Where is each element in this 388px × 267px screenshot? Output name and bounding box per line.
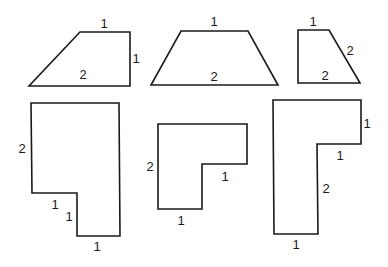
- side-label-bottom: 1: [292, 237, 299, 252]
- l-shape-outline: [31, 103, 120, 236]
- side-label-notch-horizontal: 1: [51, 197, 58, 212]
- side-label-left: 2: [146, 159, 153, 174]
- diagram-canvas: 1 1 2 1 2 1 2 2 2 1 1 1 2 1 1 1 1 2 1: [0, 0, 388, 267]
- side-label-slant: 2: [346, 43, 353, 58]
- shape-2: 1 2: [151, 14, 278, 86]
- side-label-left: 2: [18, 141, 25, 156]
- shape-4: 2 1 1 1: [18, 103, 120, 254]
- side-label-top: 1: [309, 14, 316, 29]
- shape-6: 1 1 2 1: [273, 100, 371, 252]
- side-label-inner-horizontal: 1: [221, 169, 228, 184]
- side-label-top: 1: [100, 16, 107, 31]
- shape-1: 1 1 2: [29, 16, 140, 87]
- side-label-top: 1: [210, 14, 217, 29]
- side-label-right: 1: [363, 116, 370, 131]
- side-label-inner-horizontal: 1: [336, 148, 343, 163]
- side-label-right: 1: [132, 51, 139, 66]
- side-label-inner-vertical: 2: [322, 181, 329, 196]
- side-label-bottom: 2: [79, 67, 86, 82]
- side-label-bottom: 2: [210, 69, 217, 84]
- side-label-notch-vertical: 1: [65, 209, 72, 224]
- shape-5: 2 1 1: [146, 124, 247, 228]
- side-label-bottom: 2: [321, 68, 328, 83]
- l-shape-outline: [273, 100, 361, 234]
- side-label-bottom: 1: [177, 213, 184, 228]
- l-shape-outline: [158, 124, 247, 209]
- side-label-bottom: 1: [93, 239, 100, 254]
- shape-3: 1 2 2: [298, 14, 360, 84]
